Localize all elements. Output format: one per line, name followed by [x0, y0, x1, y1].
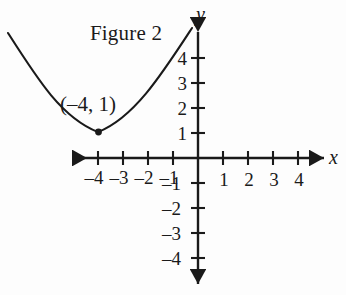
- y-tick-label-1: 1: [161, 124, 187, 143]
- y-tick-label-neg-3: –3: [155, 224, 181, 243]
- vertex-coordinate-label: (–4, 1): [60, 92, 116, 117]
- vertex-point-marker: [95, 129, 102, 136]
- x-tick-label-2: 2: [238, 170, 260, 189]
- y-tick-label-3: 3: [161, 74, 187, 93]
- y-tick-label-2: 2: [161, 99, 187, 118]
- y-tick-label-neg-1: –1: [155, 174, 181, 193]
- x-tick-label-neg-2: –2: [133, 168, 155, 187]
- x-tick-label-3: 3: [263, 170, 285, 189]
- x-tick-label-neg-4: –4: [83, 168, 105, 187]
- y-tick-label-neg-4: –4: [155, 249, 181, 268]
- x-axis-label: x: [329, 147, 338, 167]
- y-axis-label: y: [196, 4, 205, 24]
- x-tick-label-4: 4: [288, 170, 310, 189]
- y-tick-label-neg-2: –2: [155, 199, 181, 218]
- figure-title: Figure 2: [62, 20, 190, 46]
- x-tick-label-1: 1: [213, 170, 235, 189]
- figure-container: Figure 2 (–4, 1) y x –4 –3 –2 –1 1 2 3 4…: [0, 0, 346, 295]
- x-tick-label-neg-3: –3: [108, 168, 130, 187]
- y-tick-label-4: 4: [161, 49, 187, 68]
